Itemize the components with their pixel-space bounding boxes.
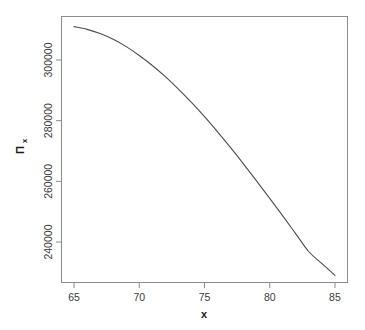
- x-tick-label: 70: [133, 291, 145, 303]
- y-tick-label: 260000: [42, 164, 54, 199]
- chart-background: [0, 0, 365, 330]
- x-tick-label: 85: [329, 291, 341, 303]
- y-tick-label: 300000: [42, 42, 54, 77]
- y-tick-label: 240000: [42, 224, 54, 259]
- y-axis-title-text: Π: [14, 146, 26, 154]
- x-tick-label: 80: [264, 291, 276, 303]
- x-tick-label: 65: [68, 291, 80, 303]
- chart-figure: 240000260000280000300000 6570758085 Π x …: [0, 0, 365, 330]
- y-tick-label: 280000: [42, 103, 54, 138]
- line-chart: 240000260000280000300000 6570758085 Π x …: [0, 0, 365, 330]
- x-tick-label: 75: [199, 291, 211, 303]
- x-axis-title: x: [201, 308, 208, 320]
